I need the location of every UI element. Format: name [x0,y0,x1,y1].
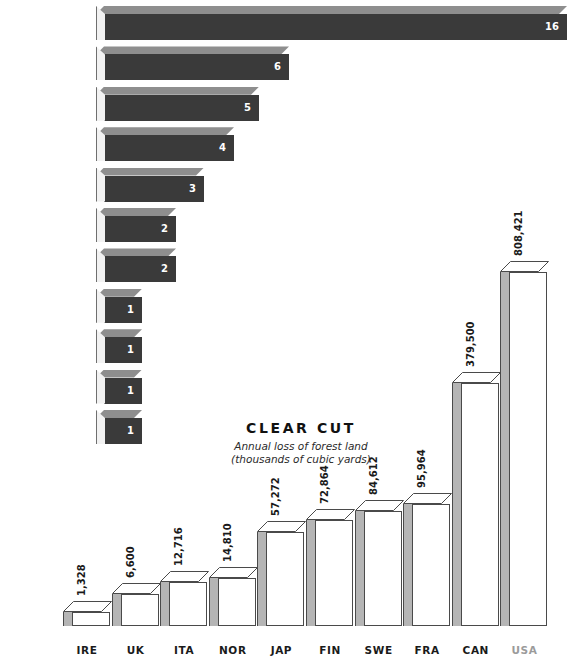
hbar-solid: 1 [96,329,142,363]
hbar-top-face [96,87,259,95]
hbar-solid: 3 [96,168,204,202]
vertical-bar-column: FIN72,864 [306,510,354,626]
vbar-value-label: 57,272 [270,477,281,516]
vbar-front-face [461,383,499,626]
hbar-solid: 2 [96,208,176,242]
hbar-top-face [96,46,289,54]
hbar-value-label: 1 [104,304,134,315]
vbar-top-face [306,509,356,521]
vbar-country-code: SWE [355,644,403,656]
vbar-front-face [121,594,159,626]
hbar-solid: 2 [96,248,176,282]
hbar-value-label: 16 [104,21,559,32]
vbar-country-code: USA [500,644,548,656]
vbar-country-code: ITA [160,644,208,656]
hbar-value-label: 1 [104,425,134,436]
hbar-top-face [96,208,176,216]
hbar-value-label: 4 [104,142,226,153]
vbar-country-code: UK [112,644,160,656]
hbar-value-label: 1 [104,344,134,355]
vbar-top-face [257,521,307,533]
vbar-value-label: 84,612 [368,456,379,495]
vbar-value-label: 6,600 [125,546,136,578]
hbar-solid: 16 [96,6,567,40]
vbar-country-code: IRE [63,644,111,656]
hbar-value-label: 2 [104,263,168,274]
vbar-country-code: FIN [306,644,354,656]
vbar-country-code: NOR [209,644,257,656]
vbar-country-code: FRA [403,644,451,656]
hbar-solid: 1 [96,370,142,404]
vertical-bar-column: NOR14,810 [209,568,257,626]
vbar-value-label: 14,810 [222,523,233,562]
vbar-top-face [112,583,162,595]
vertical-bar-column: IRE1,328 [63,602,111,626]
hbar-top-face [96,127,234,135]
hbar-value-label: 2 [104,223,168,234]
hbar-top-face [96,248,176,256]
vbar-value-label: 95,964 [416,449,427,488]
vertical-bar-column: UK6,600 [112,584,160,626]
hbar-solid: 1 [96,289,142,323]
vbar-top-face [452,372,502,384]
vbar-country-code: JAP [257,644,305,656]
vertical-bar-column: USA808,421 [500,262,548,626]
hbar-solid: 4 [96,127,234,161]
vbar-top-face [63,601,113,613]
vbar-top-face [160,571,210,583]
vbar-top-face [403,493,453,505]
vertical-bar-column: FRA95,964 [403,494,451,626]
vertical-bar-column: CAN379,500 [452,373,500,626]
vbar-front-face [218,578,256,626]
vbar-front-face [72,612,110,626]
vbar-front-face [169,582,207,626]
vbar-front-face [315,520,353,626]
vbar-country-code: CAN [452,644,500,656]
hbar-solid: 6 [96,46,289,80]
vertical-bar-column: SWE84,612 [355,501,403,626]
page-title: CLEAR CUT [196,420,406,436]
hbar-value-label: 3 [104,183,196,194]
vbar-front-face [266,532,304,626]
hbar-top-face [96,168,204,176]
hbar-solid: 5 [96,87,259,121]
vbar-front-face [509,272,547,626]
chart-subtitle-line-1: Annual loss of forest land [196,440,406,453]
hbar-top-face [96,6,567,14]
vbar-front-face [412,504,450,626]
vbar-value-label: 1,328 [76,564,87,596]
vbar-top-face [355,500,405,512]
vbar-value-label: 808,421 [513,210,524,256]
vbar-top-face [209,567,259,579]
hbar-value-label: 1 [104,385,134,396]
vertical-bar-column: JAP57,272 [257,522,305,626]
vbar-front-face [364,511,402,626]
vbar-value-label: 72,864 [319,465,330,504]
vertical-bar-column: ITA12,716 [160,572,208,626]
hbar-solid: 1 [96,410,142,444]
vbar-value-label: 12,716 [173,527,184,566]
vbar-value-label: 379,500 [465,321,476,367]
hbar-value-label: 5 [104,102,251,113]
vbar-top-face [500,261,550,273]
hbar-value-label: 6 [104,61,281,72]
